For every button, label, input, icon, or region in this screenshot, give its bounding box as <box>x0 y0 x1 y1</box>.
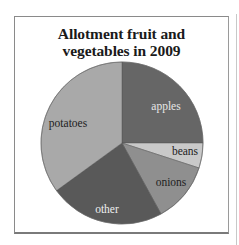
slice-label-other: other <box>95 203 119 215</box>
pie-slices <box>41 62 203 224</box>
slice-label-potatoes: potatoes <box>49 117 88 130</box>
slice-label-onions: onions <box>156 176 187 188</box>
slice-label-beans: beans <box>172 145 199 157</box>
pie-chart: applesbeansonionsotherpotatoes <box>0 0 239 245</box>
slice-label-apples: apples <box>151 100 181 113</box>
chart-figure: Allotment fruit and vegetables in 2009 a… <box>0 0 239 245</box>
